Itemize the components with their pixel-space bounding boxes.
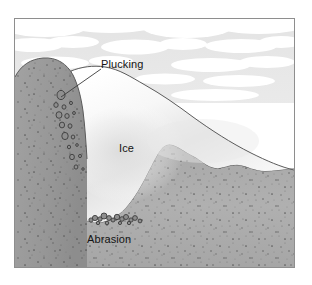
plucked-block: [62, 105, 66, 109]
plucked-block: [56, 112, 62, 119]
debris-fragment: [133, 216, 138, 221]
plucked-block: [62, 132, 68, 139]
plucked-block: [79, 154, 82, 157]
label-ice: Ice: [119, 143, 134, 154]
plucked-block: [67, 145, 70, 149]
plucked-block: [74, 165, 78, 169]
debris-fragment: [127, 221, 130, 224]
plucked-block: [82, 168, 84, 171]
plucked-block: [76, 144, 79, 147]
label-plucking: Plucking: [101, 59, 143, 70]
debris-fragment: [114, 214, 119, 219]
label-abrasion: Abrasion: [87, 234, 131, 245]
plucked-block: [71, 135, 75, 139]
plucked-block: [59, 122, 64, 128]
plucked-block: [70, 154, 75, 159]
figure-root: Plucking Ice Abrasion: [0, 0, 312, 285]
debris-fragment: [101, 213, 107, 219]
debris-fragment: [138, 219, 142, 223]
debris-fragment: [96, 221, 99, 224]
plucked-block: [70, 101, 73, 104]
plucked-block: [73, 112, 76, 115]
plucked-block: [65, 114, 69, 119]
plucked-block: [54, 103, 58, 108]
glacial-erosion-diagram: [15, 19, 294, 267]
plucked-block: [68, 124, 72, 128]
debris-fragment: [118, 221, 121, 224]
debris-fragment: [124, 215, 129, 220]
debris-fragment: [105, 221, 109, 225]
diagram-frame: Plucking Ice Abrasion: [14, 18, 295, 268]
debris-fragment: [92, 215, 97, 220]
